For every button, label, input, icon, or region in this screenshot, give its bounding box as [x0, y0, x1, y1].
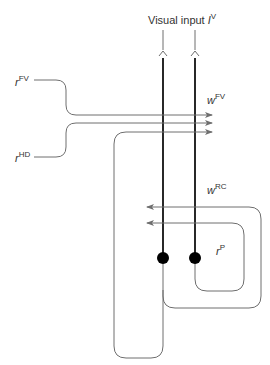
- visual-input-lines: [159, 30, 199, 56]
- cell-axons: [163, 58, 195, 258]
- left-cell-node: [157, 252, 169, 264]
- r-fv-label: rFV: [15, 74, 30, 88]
- diagram-canvas: Visual input IV rFV rHD wFV wRC: [0, 0, 270, 365]
- w-rc-label: wRC: [207, 182, 227, 196]
- w-fv-label: wFV: [207, 92, 226, 106]
- r-fv-pathway: [34, 80, 212, 115]
- visual-input-title: Visual input IV: [148, 12, 217, 26]
- network-diagram: Visual input IV rFV rHD wFV wRC: [0, 0, 270, 365]
- r-p-label: rP: [216, 243, 225, 257]
- right-cell-node: [189, 252, 201, 264]
- chevron-up-icon: [159, 51, 167, 56]
- chevron-up-icon: [191, 51, 199, 56]
- r-hd-label: rHD: [15, 150, 30, 164]
- r-hd-pathway: [34, 123, 212, 157]
